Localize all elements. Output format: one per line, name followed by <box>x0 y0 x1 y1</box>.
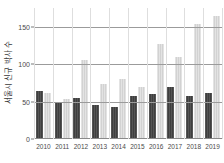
bar <box>119 79 126 139</box>
x-tick-label: 2018 <box>184 143 203 150</box>
gridline-vertical <box>166 8 167 139</box>
x-tick-label: 2015 <box>128 143 147 150</box>
bar-chart: 서울시 신규 박사 수 050100150 201020112012201320… <box>0 0 224 163</box>
gridline-vertical <box>147 8 148 139</box>
gridline-vertical <box>203 8 204 139</box>
plot-area: 050100150 <box>34 8 222 139</box>
x-tick-label: 2011 <box>53 143 72 150</box>
x-tick-label: 2019 <box>203 143 222 150</box>
x-tick-label: 2016 <box>147 143 166 150</box>
bar <box>205 93 212 139</box>
y-axis-title: 서울시 신규 박사 수 <box>0 0 14 145</box>
bar <box>130 96 137 139</box>
x-axis-labels: 2010201120122013201420152016201720182019 <box>34 143 222 150</box>
bar <box>100 84 107 139</box>
y-axis-title-text: 서울시 신규 박사 수 <box>2 41 13 103</box>
y-tick-label: 0 <box>26 136 30 143</box>
bar <box>213 16 220 139</box>
bar <box>63 99 70 139</box>
bar <box>55 103 62 139</box>
x-tick-label: 2010 <box>34 143 53 150</box>
bar <box>138 87 145 139</box>
gridline-vertical <box>222 8 223 139</box>
x-tick-label: 2014 <box>109 143 128 150</box>
bar <box>44 93 51 139</box>
gridline-vertical <box>90 8 91 139</box>
gridline-vertical <box>34 8 35 139</box>
x-tick-label: 2013 <box>90 143 109 150</box>
y-tick-label: 100 <box>18 61 30 68</box>
plot-inner: 050100150 <box>34 8 222 139</box>
bar <box>167 87 174 139</box>
y-tick-label: 50 <box>22 98 30 105</box>
gridline-vertical <box>128 8 129 139</box>
x-tick-label: 2017 <box>166 143 185 150</box>
bar <box>36 91 43 139</box>
bar <box>81 60 88 139</box>
bar <box>73 98 80 139</box>
bar <box>175 57 182 139</box>
gridline-vertical <box>109 8 110 139</box>
bar <box>92 105 99 139</box>
bar <box>111 107 118 139</box>
bar <box>194 24 201 139</box>
gridline-vertical <box>53 8 54 139</box>
gridline-vertical <box>72 8 73 139</box>
y-tick-label: 150 <box>18 23 30 30</box>
bar <box>157 44 164 139</box>
x-tick-label: 2012 <box>72 143 91 150</box>
gridline-vertical <box>184 8 185 139</box>
